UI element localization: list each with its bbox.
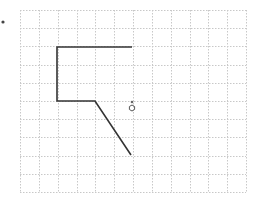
turtle-cursor-icon xyxy=(129,105,134,111)
grid xyxy=(20,10,247,193)
drawing-canvas xyxy=(0,0,257,207)
drawn-path xyxy=(57,47,132,155)
pen-dot-icon xyxy=(131,101,134,104)
origin-dot-icon xyxy=(1,20,4,23)
